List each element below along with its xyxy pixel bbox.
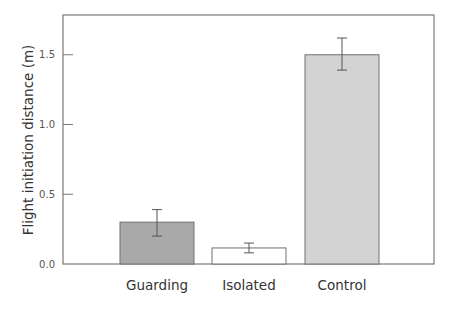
bar-control bbox=[305, 55, 379, 264]
y-axis-title: Flight initiation distance (m) bbox=[20, 45, 36, 236]
y-tick-label: 1.5 bbox=[39, 49, 55, 60]
bar-chart: 0.00.51.01.5 GuardingIsolatedControl Fli… bbox=[0, 0, 457, 318]
y-axis-ticks: 0.00.51.01.5 bbox=[39, 49, 73, 269]
x-category-label: Guarding bbox=[126, 277, 188, 293]
y-tick-label: 0.5 bbox=[39, 189, 55, 200]
bars bbox=[120, 55, 379, 264]
y-tick-label: 0.0 bbox=[39, 259, 55, 270]
x-category-label: Isolated bbox=[222, 277, 275, 293]
x-axis-labels: GuardingIsolatedControl bbox=[126, 277, 366, 293]
x-category-label: Control bbox=[318, 277, 367, 293]
y-tick-label: 1.0 bbox=[39, 119, 55, 130]
